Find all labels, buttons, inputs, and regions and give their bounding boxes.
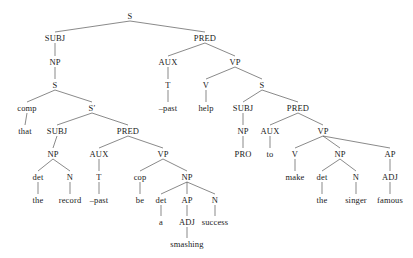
tree-category-node: T <box>165 81 170 90</box>
tree-category-node: VP <box>229 58 240 67</box>
tree-edge <box>161 182 187 194</box>
tree-category-node: PRED <box>194 34 216 43</box>
tree-category-node: cop <box>134 173 147 182</box>
tree-category-node: SUBJ <box>233 104 253 113</box>
tree-category-node: PRED <box>117 127 139 136</box>
tree-leaf-node: singer <box>345 196 367 205</box>
tree-category-node: det <box>317 173 328 182</box>
tree-leaf-node: smashing <box>170 240 203 249</box>
tree-category-node: N <box>212 196 218 205</box>
tree-edge <box>235 67 262 79</box>
tree-category-node: SUBJ <box>45 34 65 43</box>
tree-edge <box>57 113 92 125</box>
tree-edge <box>99 136 128 148</box>
tree-category-node: S <box>53 81 58 90</box>
tree-edge <box>25 113 27 125</box>
tree-leaf-node: to <box>267 150 274 159</box>
tree-category-node: ADJ <box>179 218 195 227</box>
tree-leaf-node: –past <box>159 104 178 113</box>
tree-edge <box>130 21 205 32</box>
tree-category-node: AUX <box>261 127 280 136</box>
tree-edge <box>322 159 340 171</box>
tree-category-node: V <box>292 150 298 159</box>
tree-category-node: AUX <box>159 58 178 67</box>
tree-edge <box>323 136 390 148</box>
tree-edge <box>187 182 215 194</box>
tree-category-node: ADJ <box>382 173 398 182</box>
tree-category-node: AUX <box>90 150 109 159</box>
tree-edge <box>340 159 356 171</box>
tree-category-node: NP <box>334 150 345 159</box>
tree-category-node: V <box>203 81 209 90</box>
tree-leaf-node: record <box>59 196 82 205</box>
tree-category-node: T <box>96 173 101 182</box>
tree-edge <box>323 136 340 148</box>
tree-edge <box>92 113 128 125</box>
tree-category-node: VP <box>317 127 328 136</box>
tree-edge <box>295 136 323 148</box>
tree-leaf-node: help <box>198 104 213 113</box>
tree-category-node: AP <box>384 150 395 159</box>
tree-category-node: VP <box>157 150 168 159</box>
tree-edge <box>262 90 298 102</box>
tree-leaf-node: a <box>159 218 163 227</box>
tree-leaf-node: make <box>285 173 304 182</box>
tree-leaf-node: be <box>136 196 144 205</box>
tree-category-node: S <box>260 81 265 90</box>
tree-edge <box>55 21 130 32</box>
tree-category-node: AP <box>181 196 192 205</box>
tree-category-node: SUBJ <box>47 127 67 136</box>
tree-category-node: PRED <box>287 104 309 113</box>
tree-category-node: N <box>353 173 359 182</box>
tree-edge <box>298 113 323 125</box>
tree-edge <box>168 43 205 56</box>
tree-edge <box>163 159 187 171</box>
tree-edge <box>38 159 53 171</box>
tree-category-node: det <box>33 173 44 182</box>
tree-edge <box>205 43 235 56</box>
tree-edge <box>128 136 163 148</box>
tree-category-node: NP <box>47 150 58 159</box>
tree-category-node: NP <box>237 127 248 136</box>
tree-category-node: S′ <box>89 104 96 113</box>
tree-leaf-node: the <box>317 196 328 205</box>
tree-leaf-node: that <box>18 127 31 136</box>
tree-category-node: det <box>156 196 167 205</box>
tree-category-node: S <box>128 12 133 21</box>
syntax-tree-diagram: SSUBJPREDNPAUXVPSTVScompS′–pasthelpSUBJP… <box>0 0 413 258</box>
tree-category-node: NP <box>181 173 192 182</box>
tree-edge <box>55 90 92 102</box>
tree-category-node: N <box>67 173 73 182</box>
tree-leaf-node: success <box>202 218 229 227</box>
tree-category-node: NP <box>49 58 60 67</box>
tree-edge <box>243 90 262 102</box>
tree-edge <box>53 159 70 171</box>
tree-leaf-node: –past <box>90 196 109 205</box>
tree-category-node: comp <box>17 104 36 113</box>
tree-leaf-node: the <box>33 196 44 205</box>
tree-edge <box>53 136 57 148</box>
tree-edge <box>206 67 235 79</box>
tree-edge <box>27 90 55 102</box>
tree-leaf-node: PRO <box>235 150 252 159</box>
tree-edge <box>140 159 163 171</box>
tree-edge <box>270 113 298 125</box>
tree-leaf-node: famous <box>377 196 403 205</box>
